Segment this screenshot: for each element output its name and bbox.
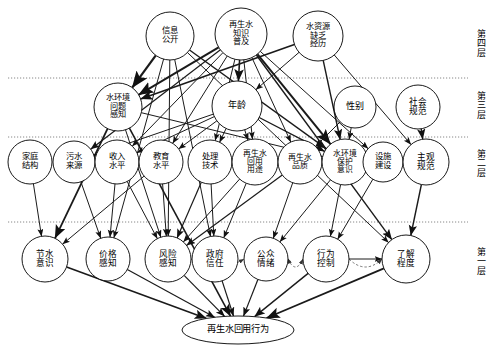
edge-n_public_emo-to-n_behavior [244, 280, 258, 317]
node-shape-n_env_protect[interactable] [322, 139, 368, 185]
node-shape-n_sewage_src[interactable] [53, 141, 95, 183]
node-group [8, 8, 449, 344]
node-shape-n_family[interactable] [8, 140, 52, 184]
edge-n_knowledge-to-n_env_protect [257, 54, 330, 144]
node-shape-n_scarcity[interactable] [293, 11, 343, 61]
node-shape-n_info_open[interactable] [146, 12, 194, 60]
node-shape-n_env_percep[interactable] [94, 83, 142, 131]
edge-n_social_norm-to-n_subj_norm [421, 129, 423, 139]
edge-n_age-to-n_treat_tech [220, 129, 227, 143]
node-shape-n_save_water[interactable] [22, 236, 68, 282]
diagram-canvas: 信息 公开再生水 知识 普及水资源 缺乏 经历水环境 问题 感知年龄性别社会 规… [0, 0, 499, 349]
edge-n_income-to-n_risk_percep [127, 182, 157, 239]
node-shape-n_subj_norm[interactable] [403, 139, 449, 185]
edge-n_public_emo-to-n_behav_ctrl [288, 259, 303, 267]
edge-n_env_protect-to-n_public_emo [280, 180, 331, 242]
node-shape-n_water_quality[interactable] [278, 140, 322, 184]
edge-n_facility-to-n_behav_ctrl [338, 179, 373, 239]
node-shape-n_income[interactable] [95, 140, 139, 184]
node-shape-n_social_norm[interactable] [396, 85, 440, 129]
edge-n_family-to-n_save_water [33, 184, 41, 237]
node-shape-n_awareness[interactable] [382, 235, 430, 283]
edge-n_education-to-n_save_water [63, 176, 145, 244]
node-shape-n_gender[interactable] [334, 86, 376, 128]
edge-n_behav_ctrl-to-n_awareness [349, 259, 382, 267]
node-shape-n_public_emo[interactable] [244, 237, 288, 281]
edge-n_knowledge-to-n_income [132, 53, 223, 147]
layer-label-layer3: 第 三 层 [474, 92, 488, 120]
node-shape-n_reuse_purpose[interactable] [232, 139, 278, 185]
diagram-graphics [0, 0, 499, 349]
node-shape-n_age[interactable] [212, 81, 262, 131]
edge-n_income-to-n_price_percep [110, 184, 115, 237]
node-shape-n_price_percep[interactable] [86, 237, 130, 281]
layer-label-layer1: 第 一 层 [474, 248, 488, 276]
edge-n_info_open-to-n_env_percep [132, 55, 156, 87]
edge-n_sewage_src-to-n_price_percep [81, 182, 101, 238]
node-shape-n_education[interactable] [139, 140, 183, 184]
edge-n_treat_tech-to-n_risk_percep [177, 182, 201, 238]
node-shape-n_behavior[interactable] [182, 316, 294, 344]
node-shape-n_risk_percep[interactable] [145, 236, 191, 282]
node-shape-n_facility[interactable] [363, 142, 403, 182]
node-shape-n_behav_ctrl[interactable] [303, 236, 349, 282]
layer-label-layer2: 第 二 层 [474, 150, 488, 178]
node-shape-n_gov_trust[interactable] [192, 236, 238, 282]
edge-n_subj_norm-to-n_awareness [411, 185, 422, 236]
node-shape-n_knowledge[interactable] [215, 8, 267, 60]
layer-label-layer4: 第 四 层 [474, 30, 488, 58]
node-shape-n_treat_tech[interactable] [188, 140, 232, 184]
